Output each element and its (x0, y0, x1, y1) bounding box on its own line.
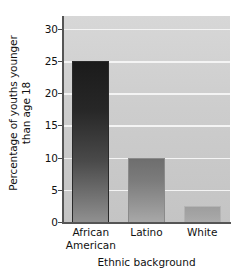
gridline (63, 29, 230, 31)
x-tick-label-line: American (66, 239, 116, 252)
y-axis-title: Percentage of youths younger than age 18 (0, 0, 40, 226)
y-tick-label: 0 (51, 217, 58, 228)
y-axis-title-line-2: than age 18 (20, 35, 33, 190)
x-axis-tick-labels: AfricanAmericanLatinoWhite (63, 226, 230, 252)
y-tick-label: 10 (45, 152, 58, 163)
y-tick-label: 5 (51, 184, 58, 195)
bar-african-american (72, 61, 109, 222)
plot-area (63, 16, 230, 222)
x-tick-label: AfricanAmerican (66, 226, 116, 251)
bar-white (184, 206, 221, 222)
y-tick-label: 25 (45, 56, 58, 67)
y-axis-line (62, 16, 64, 223)
y-tick-label: 15 (45, 120, 58, 131)
y-axis-title-line-1: Percentage of youths younger (7, 35, 20, 190)
y-axis-tick-labels: 051015202530 (36, 16, 58, 224)
y-tick-label: 30 (45, 23, 58, 34)
x-axis-line (62, 222, 231, 224)
x-tick-label: White (187, 226, 218, 239)
bar-latino (128, 158, 165, 222)
x-axis-title: Ethnic background (63, 256, 230, 268)
x-tick-label: Latino (130, 226, 162, 239)
y-tick-label: 20 (45, 88, 58, 99)
x-tick-label-line: White (187, 226, 218, 239)
bar-chart-figure: Percentage of youths younger than age 18… (0, 0, 252, 276)
x-tick-label-line: Latino (130, 226, 162, 239)
x-tick-label-line: African (66, 226, 116, 239)
